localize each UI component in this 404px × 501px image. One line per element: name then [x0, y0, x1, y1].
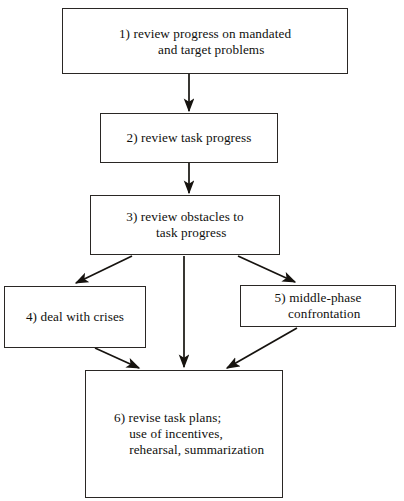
flow-node-1-label: 1) review progress on mandated and targe… — [119, 24, 291, 58]
flow-node-3: 3) review obstacles to task progress — [90, 195, 280, 255]
edge-4-to-6 — [95, 348, 139, 368]
flow-node-4-label: 4) deal with crises — [26, 309, 124, 325]
flow-node-6-label: 6) revise task plans; use of incentives,… — [114, 410, 264, 458]
edge-3-to-5 — [238, 256, 295, 282]
edge-5-to-6 — [227, 328, 297, 368]
flowchart-figure: 1) review progress on mandated and targe… — [0, 0, 404, 501]
flow-node-5-label: 5) middle-phase confrontation — [275, 290, 362, 322]
flow-node-3-label: 3) review obstacles to task progress — [126, 209, 244, 241]
flow-node-5: 5) middle-phase confrontation — [240, 285, 396, 327]
flow-node-4: 4) deal with crises — [4, 286, 146, 348]
flow-node-2-label: 2) review task progress — [127, 130, 252, 146]
edge-3-to-4 — [76, 256, 132, 283]
flow-node-6: 6) revise task plans; use of incentives,… — [85, 370, 283, 498]
flow-node-1: 1) review progress on mandated and targe… — [62, 8, 348, 74]
flow-node-2: 2) review task progress — [100, 113, 278, 163]
